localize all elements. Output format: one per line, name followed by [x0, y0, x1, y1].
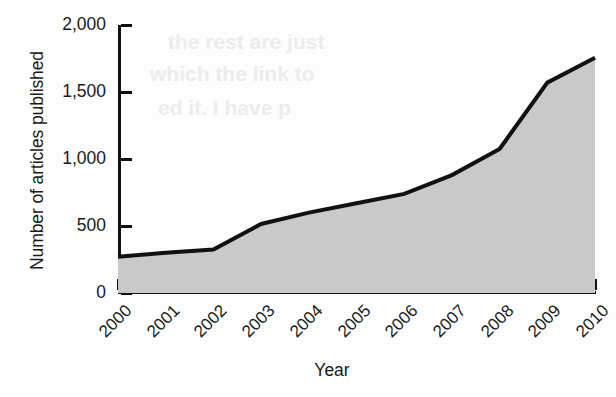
- x-tick-label: 2000: [78, 301, 136, 359]
- x-tick-label: 2008: [460, 301, 518, 359]
- x-tick-label: 2010: [555, 301, 613, 359]
- chart-figure: the rest are just which the link to ed i…: [0, 0, 616, 397]
- x-axis-title: Year: [0, 360, 616, 381]
- y-tick-label: 2,000: [62, 14, 106, 35]
- area-fill: [118, 58, 595, 293]
- y-tick-label: 1,000: [62, 148, 106, 169]
- x-tick-label: 2004: [269, 301, 327, 359]
- x-tick-label: 2007: [412, 301, 470, 359]
- y-axis-title: Number of articles published: [27, 16, 48, 306]
- y-tick-label: 1,500: [62, 81, 106, 102]
- x-tick-label: 2003: [221, 301, 279, 359]
- x-tick-label: 2001: [126, 301, 184, 359]
- y-tick-label: 0: [96, 282, 106, 303]
- x-tick-label: 2002: [174, 301, 232, 359]
- x-tick-label: 2005: [317, 301, 375, 359]
- x-tick-label: 2009: [507, 301, 565, 359]
- area-series: [118, 25, 595, 293]
- plot-area: 05001,0001,5002,000 20002001200220032004…: [118, 25, 595, 293]
- y-tick-label: 500: [77, 215, 106, 236]
- x-tick-label: 2006: [364, 301, 422, 359]
